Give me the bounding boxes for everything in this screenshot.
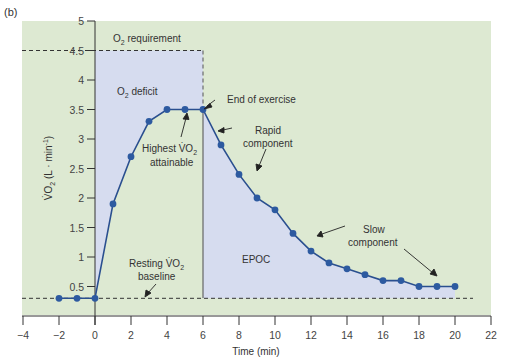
data-point [218, 142, 225, 149]
data-point [254, 195, 261, 202]
x-tick-label: 0 [92, 329, 98, 341]
x-tick-label: 22 [485, 329, 497, 341]
x-tick-label: 14 [341, 329, 353, 341]
data-point [398, 277, 405, 284]
data-point [452, 283, 459, 290]
data-point [164, 106, 171, 113]
highest-vo2-label-line2: attainable [150, 157, 194, 168]
data-point [308, 248, 315, 255]
slow-component-label-line1: Slow [363, 224, 385, 235]
x-tick-label: 4 [164, 329, 170, 341]
y-tick-label: 0.5 [69, 281, 84, 293]
data-point [344, 265, 351, 272]
x-tick-label: 12 [305, 329, 317, 341]
y-tick-label: 5 [78, 15, 84, 27]
data-point [182, 106, 189, 113]
data-point [362, 271, 369, 278]
x-tick-label: −2 [53, 329, 65, 341]
x-tick-label: 10 [269, 329, 281, 341]
x-tick-label: −4 [17, 329, 29, 341]
y-tick-label: 1.5 [69, 222, 84, 234]
y-tick-label: 4 [78, 74, 84, 86]
y-tick-label: 3.5 [69, 104, 84, 116]
data-point [146, 118, 153, 125]
resting-baseline-label-line1: Resting V̇O2 [129, 257, 184, 271]
end-of-exercise-label: End of exercise [227, 94, 296, 105]
y-axis-title: V̇O2 (L · min-1) [42, 136, 56, 200]
data-point [272, 206, 279, 213]
data-point [416, 283, 423, 290]
epoc-label: EPOC [242, 254, 270, 265]
data-point [74, 295, 81, 302]
y-tick-label: 1 [78, 251, 84, 263]
data-point [200, 106, 207, 113]
y-tick-label: 4.5 [69, 45, 84, 57]
slow-component-label-line2: component [348, 237, 398, 248]
resting-baseline-label-line2: baseline [138, 271, 176, 282]
x-axis-ticks: −4−20246810121416182022 [17, 316, 497, 341]
data-point [92, 295, 99, 302]
vo2-chart: 0.511.522.533.544.55 −4−2024681012141618… [0, 0, 505, 364]
x-tick-label: 20 [449, 329, 461, 341]
rapid-component-label-line2: component [243, 138, 293, 149]
data-point [110, 201, 117, 208]
x-tick-label: 16 [377, 329, 389, 341]
y-tick-label: 3 [78, 133, 84, 145]
data-point [380, 277, 387, 284]
highest-vo2-label-line1: Highest V̇O2 [142, 142, 197, 156]
x-tick-label: 18 [413, 329, 425, 341]
data-point [326, 260, 333, 267]
data-point [290, 230, 297, 237]
data-point [128, 153, 135, 160]
x-tick-label: 8 [236, 329, 242, 341]
x-tick-label: 2 [128, 329, 134, 341]
y-tick-label: 2.5 [69, 163, 84, 175]
x-tick-label: 6 [200, 329, 206, 341]
data-point [56, 295, 63, 302]
data-point [236, 171, 243, 178]
y-tick-label: 2 [78, 192, 84, 204]
rapid-component-label-line1: Rapid [255, 125, 281, 136]
data-point [434, 283, 441, 290]
x-axis-title: Time (min) [232, 346, 279, 357]
